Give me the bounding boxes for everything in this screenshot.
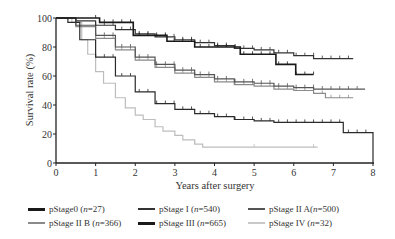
x-tick-label: 4 bbox=[212, 167, 217, 178]
legend-item-stage4: pStage IV (n=32) bbox=[248, 218, 332, 228]
y-tick-label: 20 bbox=[42, 129, 52, 140]
y-tick-label: 0 bbox=[47, 158, 52, 169]
x-tick-label: 7 bbox=[331, 167, 336, 178]
survival-chart: 020406080100 012345678 Years after surge… bbox=[0, 0, 395, 200]
x-axis-title: Years after surgery bbox=[175, 180, 255, 191]
x-tick-label: 8 bbox=[371, 167, 376, 178]
legend-label-stage1: pStage I (n=540) bbox=[159, 204, 220, 214]
legend-swatch-stage2a bbox=[248, 208, 265, 210]
legend-item-stage0: pStage0 (n=27) bbox=[28, 204, 138, 214]
series-lines bbox=[56, 15, 373, 163]
y-tick-label: 60 bbox=[42, 71, 52, 82]
legend-swatch-stage0 bbox=[28, 208, 45, 211]
series-line-3 bbox=[56, 18, 353, 98]
x-tick-label: 6 bbox=[291, 167, 296, 178]
legend: pStage0 (n=27) pStage I (n=540) pStage I… bbox=[28, 202, 395, 230]
legend-label-stage3: pStage III (n=665) bbox=[159, 218, 226, 228]
legend-label-stage0: pStage0 (n=27) bbox=[49, 204, 105, 214]
x-tick-label: 0 bbox=[54, 167, 59, 178]
series-line-2 bbox=[56, 18, 365, 89]
legend-swatch-stage2b bbox=[28, 222, 45, 224]
y-tick-label: 100 bbox=[37, 13, 52, 24]
y-tick-label: 80 bbox=[42, 42, 52, 53]
legend-item-stage2a: pStage II A(n=500) bbox=[248, 204, 339, 214]
x-tick-label: 1 bbox=[93, 167, 98, 178]
x-ticks: 012345678 bbox=[54, 163, 376, 178]
x-tick-label: 3 bbox=[172, 167, 177, 178]
legend-row-1: pStage0 (n=27) pStage I (n=540) pStage I… bbox=[28, 202, 395, 216]
legend-label-stage4: pStage IV (n=32) bbox=[269, 218, 332, 228]
series-line-4 bbox=[56, 18, 373, 163]
chart-axes bbox=[56, 18, 374, 163]
legend-swatch-stage4 bbox=[248, 222, 265, 224]
y-tick-label: 40 bbox=[42, 100, 52, 111]
legend-row-2: pStage II B (n=366) pStage III (n=665) p… bbox=[28, 216, 395, 230]
legend-swatch-stage1 bbox=[138, 208, 155, 210]
x-tick-label: 5 bbox=[252, 167, 257, 178]
legend-label-stage2b: pStage II B (n=366) bbox=[49, 218, 121, 228]
legend-item-stage2b: pStage II B (n=366) bbox=[28, 218, 138, 228]
legend-item-stage3: pStage III (n=665) bbox=[138, 218, 248, 228]
legend-item-stage1: pStage I (n=540) bbox=[138, 204, 248, 214]
legend-label-stage2a: pStage II A(n=500) bbox=[269, 204, 339, 214]
x-tick-label: 2 bbox=[133, 167, 138, 178]
y-ticks: 020406080100 bbox=[37, 13, 56, 169]
y-axis-title: Survival rate (%) bbox=[24, 53, 36, 126]
legend-swatch-stage3 bbox=[138, 222, 155, 225]
